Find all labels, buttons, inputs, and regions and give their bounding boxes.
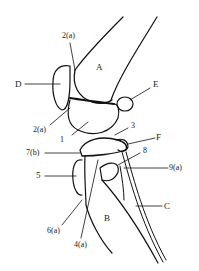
patella <box>53 66 70 110</box>
label-E: E <box>153 80 159 89</box>
label-A: A <box>96 63 103 72</box>
leader-6a <box>62 200 82 225</box>
leader-3 <box>115 128 128 135</box>
label-D: D <box>15 80 22 89</box>
tibia-anterior <box>85 156 112 253</box>
label-9a: 9(a) <box>169 164 182 172</box>
femur-condyle <box>74 70 112 103</box>
label-F: F <box>156 133 161 142</box>
joint-capsule <box>68 100 119 134</box>
leader-4a <box>81 160 98 238</box>
label-B: B <box>104 214 110 223</box>
tibia-inner <box>120 166 124 200</box>
leader-F <box>128 138 155 144</box>
fat-pad <box>73 160 82 195</box>
diagram-drawing <box>0 0 199 271</box>
label-8: 8 <box>143 147 147 155</box>
label-3: 3 <box>131 122 135 130</box>
label-7b: 7(b) <box>26 149 39 157</box>
label-2a-bottom: 2(a) <box>33 126 46 134</box>
fibula-shaft <box>100 163 118 181</box>
label-5: 5 <box>36 171 41 180</box>
articular-band <box>70 98 114 104</box>
leader-2a-top <box>70 43 75 70</box>
label-6a: 6(a) <box>47 227 60 235</box>
leader-E <box>130 88 150 100</box>
label-4a: 4(a) <box>74 241 87 249</box>
femur-shaft-rear <box>111 17 157 100</box>
tibial-plateau <box>80 138 127 156</box>
label-C: C <box>164 202 170 211</box>
leader-2a-bottom <box>50 108 70 125</box>
label-2a-top: 2(a) <box>62 32 75 40</box>
label-1: 1 <box>60 136 64 144</box>
sesamoid <box>117 97 133 111</box>
